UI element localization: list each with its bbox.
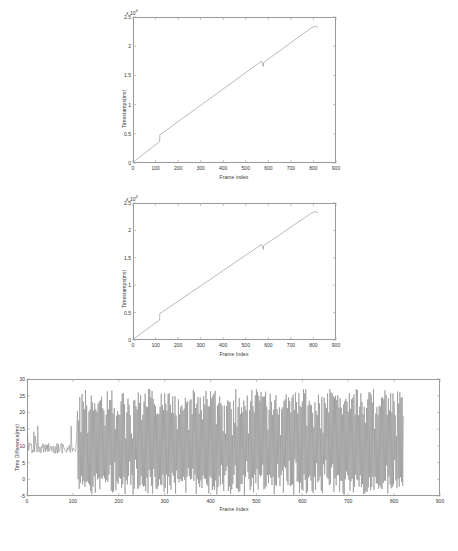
x-tick-label: 300 xyxy=(196,165,204,171)
y-tick-label: 2 xyxy=(119,43,131,49)
y-tick-label: 0 xyxy=(119,337,131,343)
x-axis-title: Frame Index xyxy=(184,351,284,357)
x-axis-title: Frame index xyxy=(184,174,284,180)
y-tick-label: 20 xyxy=(13,409,25,415)
x-tick-label: 800 xyxy=(309,342,317,348)
x-tick-label: 100 xyxy=(151,342,159,348)
x-tick-label: 0 xyxy=(132,342,135,348)
plot-svg xyxy=(0,0,458,188)
data-series-line xyxy=(133,211,318,339)
y-tick-label: 2.5 xyxy=(119,200,131,206)
y-tick-label: 0.5 xyxy=(119,310,131,316)
x-tick-label: 500 xyxy=(242,165,250,171)
plot-svg xyxy=(0,368,458,551)
y-tick-label: 0.5 xyxy=(119,131,131,137)
y-axis-title: Timestamps(ms) xyxy=(121,90,127,128)
chart-timestamps-middle: x 104 0100200300400500600700800900 00.51… xyxy=(0,188,458,368)
x-tick-label: 400 xyxy=(219,165,227,171)
y-tick-label: 2 xyxy=(119,227,131,233)
tick-marks xyxy=(133,17,336,163)
y-tick-label: 1.5 xyxy=(119,72,131,78)
tick-marks xyxy=(133,203,336,340)
x-tick-label: 600 xyxy=(264,165,272,171)
chart-time-difference: 0100200300400500600700800900 -5051015202… xyxy=(0,368,458,551)
x-tick-label: 0 xyxy=(132,165,135,171)
x-tick-label: 200 xyxy=(174,165,182,171)
y-tick-label: 30 xyxy=(13,376,25,382)
x-tick-label: 500 xyxy=(242,342,250,348)
x-tick-label: 900 xyxy=(332,342,340,348)
x-axis-title: Frame Index xyxy=(184,506,284,512)
x-tick-label: 800 xyxy=(309,165,317,171)
y-tick-label: 25 xyxy=(13,393,25,399)
plot-svg xyxy=(0,188,458,368)
y-tick-label: 0 xyxy=(119,160,131,166)
x-tick-label: 200 xyxy=(115,498,123,504)
x-tick-label: 600 xyxy=(298,498,306,504)
x-tick-label: 500 xyxy=(252,498,260,504)
y-axis-title: Timestamps(ms) xyxy=(121,270,127,308)
y-tick-label: 0 xyxy=(13,476,25,482)
data-series-line xyxy=(133,26,318,162)
chart-timestamps-top: x 104 0100200300400500600700800900 00.51… xyxy=(0,0,458,188)
y-axis-title: Time Difference(ms) xyxy=(14,424,20,471)
x-tick-label: 0 xyxy=(26,498,29,504)
x-tick-label: 400 xyxy=(206,498,214,504)
x-tick-label: 700 xyxy=(344,498,352,504)
x-tick-label: 700 xyxy=(287,342,295,348)
x-tick-label: 300 xyxy=(160,498,168,504)
x-tick-label: 400 xyxy=(219,342,227,348)
y-tick-label: 1.5 xyxy=(119,255,131,261)
x-tick-label: 300 xyxy=(196,342,204,348)
x-tick-label: 100 xyxy=(69,498,77,504)
x-tick-label: 100 xyxy=(151,165,159,171)
y-tick-label: -5 xyxy=(13,493,25,499)
x-tick-label: 900 xyxy=(436,498,444,504)
x-tick-label: 200 xyxy=(174,342,182,348)
y-tick-label: 2.5 xyxy=(119,14,131,20)
x-tick-label: 600 xyxy=(264,342,272,348)
x-tick-label: 900 xyxy=(332,165,340,171)
data-series-line xyxy=(27,389,403,495)
x-tick-label: 800 xyxy=(390,498,398,504)
x-tick-label: 700 xyxy=(287,165,295,171)
